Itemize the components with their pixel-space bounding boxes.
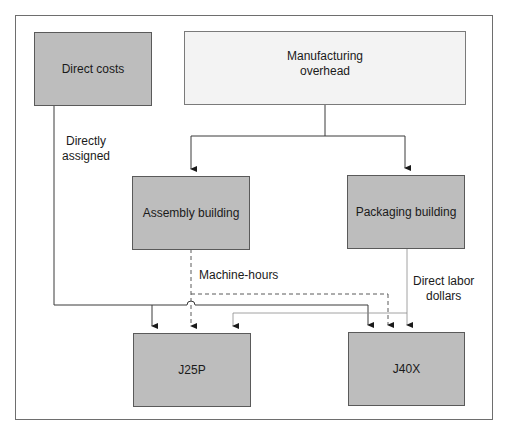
- node-packaging-building: Packaging building: [347, 175, 465, 249]
- edge-label-direct-labor-dollars: Direct labor dollars: [413, 274, 474, 304]
- node-direct-costs-label: Direct costs: [62, 62, 125, 77]
- machine-hours-connector: [191, 249, 388, 326]
- node-j25p-label: J25P: [178, 363, 205, 378]
- node-assembly-label: Assembly building: [143, 206, 240, 221]
- edge-label-directly-assigned: Directly assigned: [62, 134, 110, 164]
- direct-labor-line2: dollars: [413, 289, 474, 304]
- directly-assigned-line2: assigned: [62, 149, 110, 164]
- node-packaging-label: Packaging building: [356, 205, 457, 220]
- node-overhead-label-line1: Manufacturing: [287, 49, 363, 64]
- node-direct-costs: Direct costs: [34, 32, 152, 106]
- node-j40x-label: J40X: [393, 362, 420, 377]
- node-manufacturing-overhead: Manufacturing overhead: [184, 31, 466, 105]
- edge-label-machine-hours: Machine-hours: [199, 268, 278, 283]
- direct-labor-connector: [233, 248, 407, 326]
- directly-assigned-line1: Directly: [62, 134, 110, 149]
- machine-hours-text: Machine-hours: [199, 268, 278, 282]
- direct-labor-line1: Direct labor: [413, 274, 474, 289]
- node-assembly-building: Assembly building: [132, 176, 250, 250]
- node-overhead-label-line2: overhead: [300, 64, 350, 79]
- node-j40x: J40X: [348, 332, 465, 406]
- node-j25p: J25P: [133, 333, 251, 407]
- overhead-connector: [191, 104, 405, 169]
